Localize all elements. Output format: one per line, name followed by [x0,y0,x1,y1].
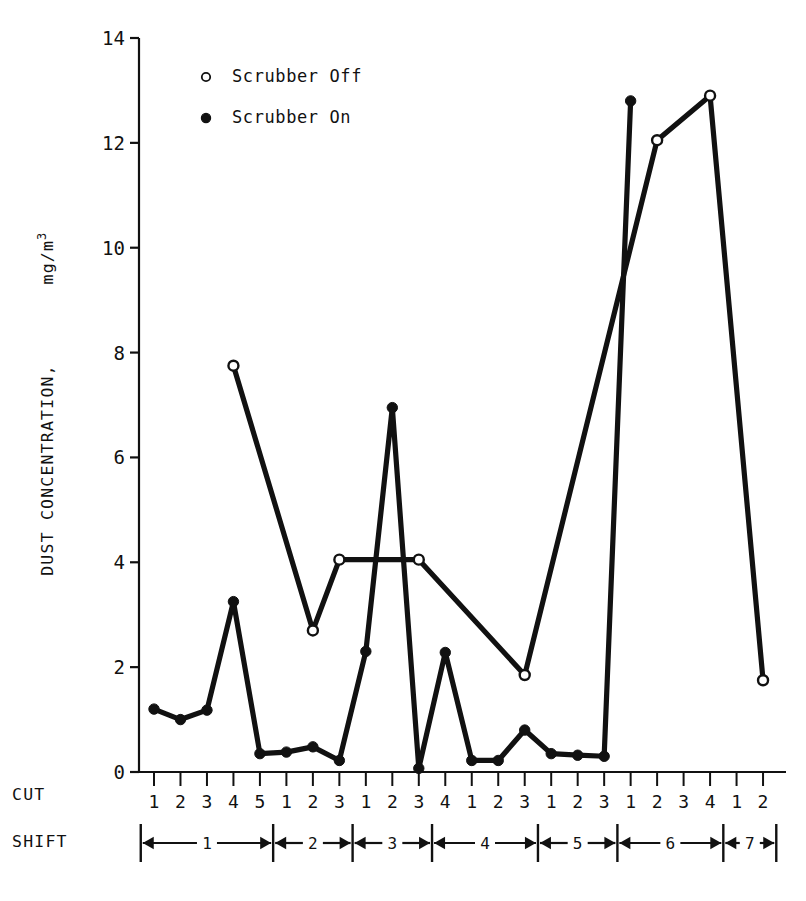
data-point-scrubber-on [228,596,238,606]
chart-svg: 02468101214 DUST CONCENTRATION, mg/m3 Sc… [0,0,806,901]
data-point-scrubber-on [414,763,424,773]
shift-span: 5 [540,834,615,853]
cut-tick-label: 1 [281,791,292,812]
cut-tick-label: 3 [519,791,530,812]
data-point-scrubber-on [255,748,265,758]
legend-filled-circle-icon [201,113,210,122]
chart-figure: 02468101214 DUST CONCENTRATION, mg/m3 Sc… [0,0,806,901]
y-axis-tick-label: 14 [102,27,125,49]
cut-tick-label: 3 [599,791,610,812]
y-axis-tick-label: 8 [114,342,125,364]
legend-label: Scrubber On [232,107,351,127]
y-axis-tick-label: 2 [114,656,125,678]
cut-tick-label: 3 [413,791,424,812]
shift-span: 3 [355,834,430,853]
y-axis-tick-label: 4 [114,551,125,573]
y-axis-tick-label: 6 [114,446,125,468]
shift-arrowhead [604,837,615,849]
shift-arrowhead [540,837,551,849]
shift-span: 1 [143,834,271,853]
data-point-scrubber-on [467,755,477,765]
cut-tick-label: 1 [360,791,371,812]
shift-span: 4 [434,834,536,853]
data-point-scrubber-off [652,135,662,145]
data-point-scrubber-on [387,402,397,412]
data-point-scrubber-on [281,747,291,757]
data-point-scrubber-off [705,91,715,101]
cut-tick-label: 3 [678,791,689,812]
cut-tick-label: 3 [202,791,213,812]
chart-series-layer [149,91,768,774]
cut-row-label: CUT [12,785,45,804]
y-axis-unit-text: mg/m3 [35,232,57,285]
data-point-scrubber-on [599,751,609,761]
cut-tick-label: 2 [493,791,504,812]
data-point-scrubber-on [546,748,556,758]
chart-axes: 02468101214 [102,27,786,786]
chart-legend: Scrubber OffScrubber On [201,66,362,127]
shift-arrowhead [525,837,536,849]
cut-tick-label: 4 [440,791,451,812]
shift-row-label: SHIFT [12,832,68,851]
shift-number-label: 6 [666,834,676,853]
shift-arrowhead [419,837,430,849]
chart-series [228,91,768,686]
shift-arrowhead [434,837,445,849]
shift-arrowhead [355,837,366,849]
shift-number-label: 4 [480,834,490,853]
shift-number-label: 7 [745,834,755,853]
legend-label: Scrubber Off [232,66,362,86]
cut-tick-label: 5 [254,791,265,812]
data-point-scrubber-on [361,646,371,656]
data-point-scrubber-on [493,755,503,765]
series-line [233,96,763,681]
data-point-scrubber-off [228,361,238,371]
shift-arrowhead [710,837,721,849]
shift-axis: 1234567 [141,824,777,862]
cut-tick-label: 2 [652,791,663,812]
shift-number-label: 3 [387,834,397,853]
data-point-scrubber-on [520,725,530,735]
shift-arrowhead [340,837,351,849]
legend-open-circle-icon [202,73,210,81]
shift-arrowhead [275,837,286,849]
y-axis-title: DUST CONCENTRATION, mg/m3 [35,232,57,576]
data-point-scrubber-on [308,742,318,752]
cut-tick-label: 2 [307,791,318,812]
shift-number-label: 5 [573,834,583,853]
y-axis-tick-label: 0 [114,761,125,783]
shift-number-label: 2 [308,834,318,853]
cut-tick-label: 4 [705,791,716,812]
data-point-scrubber-on [175,714,185,724]
y-axis-tick-label: 10 [102,237,125,259]
shift-span: 2 [275,834,350,853]
cut-tick-labels: 123451231234123123123412 [149,791,769,812]
data-point-scrubber-off [758,675,768,685]
y-axis-tick-label: 12 [102,132,125,154]
cut-tick-label: 2 [175,791,186,812]
cut-tick-label: 1 [466,791,477,812]
shift-arrowhead [763,837,774,849]
data-point-scrubber-off [308,625,318,635]
shift-arrowhead [143,837,154,849]
cut-tick-label: 2 [572,791,583,812]
shift-number-label: 1 [202,834,212,853]
data-point-scrubber-on [572,750,582,760]
cut-tick-label: 3 [334,791,345,812]
cut-tick-label: 1 [625,791,636,812]
data-point-scrubber-off [520,670,530,680]
shift-arrowhead [725,837,736,849]
y-axis-title-text: DUST CONCENTRATION, [38,364,57,576]
cut-tick-label: 2 [758,791,769,812]
cut-tick-label: 1 [731,791,742,812]
cut-tick-label: 2 [387,791,398,812]
cut-tick-label: 1 [149,791,160,812]
data-point-scrubber-on [440,647,450,657]
data-point-scrubber-on [202,705,212,715]
data-point-scrubber-off [334,555,344,565]
cut-tick-label: 4 [228,791,239,812]
data-point-scrubber-off [414,555,424,565]
shift-arrowhead [260,837,271,849]
cut-tick-label: 1 [546,791,557,812]
data-point-scrubber-on [625,96,635,106]
